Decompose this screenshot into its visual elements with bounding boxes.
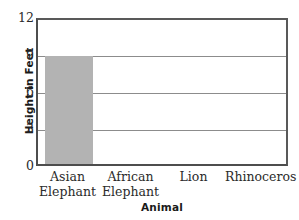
bar-slot-lion xyxy=(162,20,224,164)
y-axis-tick-labels: 12 9 6 3 0 xyxy=(10,0,34,220)
x-axis-title: Animal xyxy=(36,201,288,213)
plot-area xyxy=(36,18,288,166)
y-tick-label: 3 xyxy=(12,123,34,136)
x-tick-label: Lion xyxy=(162,169,225,184)
bars-layer xyxy=(38,20,286,164)
x-axis-tick-labels: AsianElephant AfricanElephant Lion Rhino… xyxy=(36,169,288,203)
x-tick-label: Rhinoceros xyxy=(225,169,288,184)
y-tick-label: 6 xyxy=(12,86,34,99)
y-tick-label: 0 xyxy=(12,160,34,173)
bar-slot-asian-elephant xyxy=(38,20,100,164)
y-tick-label: 12 xyxy=(12,12,34,25)
bar-slot-african-elephant xyxy=(100,20,162,164)
bar-slot-rhinoceros xyxy=(224,20,286,164)
bar-chart: Height in Feet 12 9 6 3 0 AsianElephant xyxy=(0,0,299,220)
x-tick-label: AsianElephant xyxy=(36,169,99,199)
x-tick-label: AfricanElephant xyxy=(99,169,162,199)
y-tick-label: 9 xyxy=(12,49,34,62)
bar-asian-elephant xyxy=(45,56,92,164)
